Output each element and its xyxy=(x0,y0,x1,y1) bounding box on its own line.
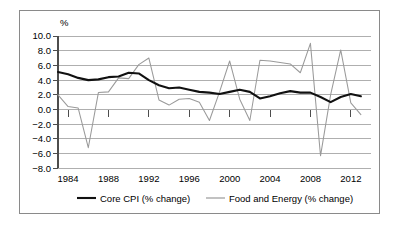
y-tick-label-neg4: −4.0 xyxy=(32,133,51,144)
x-tick-label-1988: 1988 xyxy=(98,173,119,184)
chart-figure: % xyxy=(19,10,380,214)
y-tick-label-6: 6.0 xyxy=(38,60,51,71)
chart-legend: Core CPI (% change) Food and Energy (% c… xyxy=(77,193,353,204)
x-tick-label-2004: 2004 xyxy=(260,173,281,184)
x-tick-label-1984: 1984 xyxy=(58,173,79,184)
y-tick-label-4: 4.0 xyxy=(38,75,51,86)
y-tick-label-10: 10.0 xyxy=(33,30,52,41)
y-tick-labels: 10.0 8.0 6.0 4.0 2.0 0.0 −2.0 −4.0 −6.0 … xyxy=(32,30,51,173)
x-tick-label-2000: 2000 xyxy=(219,173,240,184)
y-tick-label-0: 0.0 xyxy=(38,104,51,115)
y-tick-label-neg8: −8.0 xyxy=(32,163,51,174)
x-tick-labels: 1984 1988 1992 1996 2000 2004 2008 2012 xyxy=(58,173,362,184)
legend-label-core-cpi: Core CPI (% change) xyxy=(100,193,190,204)
y-tick-label-neg2: −2.0 xyxy=(32,119,51,130)
cpi-line-chart: % xyxy=(20,11,379,213)
x-tick-label-1996: 1996 xyxy=(179,173,200,184)
y-tickmarks xyxy=(53,36,58,168)
gridlines xyxy=(58,36,371,168)
y-tick-label-neg6: −6.0 xyxy=(32,148,51,159)
legend-label-food-and-energy: Food and Energy (% change) xyxy=(229,193,353,204)
y-tick-label-2: 2.0 xyxy=(38,89,51,100)
x-tick-label-2012: 2012 xyxy=(340,173,361,184)
x-tick-label-1992: 1992 xyxy=(138,173,159,184)
x-tick-label-2008: 2008 xyxy=(300,173,321,184)
x-tickmarks xyxy=(68,110,351,117)
y-axis-unit-label: % xyxy=(60,17,69,28)
y-tick-label-8: 8.0 xyxy=(38,45,51,56)
